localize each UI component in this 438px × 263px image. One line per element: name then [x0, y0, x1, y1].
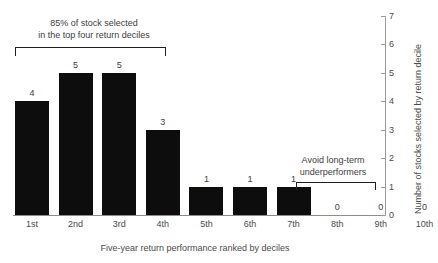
x-axis-tick-label: 3rd [102, 219, 136, 230]
bar [233, 187, 267, 215]
y-axis-tick-label: 7 [389, 12, 394, 21]
y-axis-tick-label: 6 [389, 40, 394, 49]
x-axis-tick-label: 5th [189, 219, 223, 230]
bar-value-label: 3 [146, 117, 180, 127]
x-axis-tick-label: 1st [15, 219, 49, 230]
y-axis-tick-label: 2 [389, 154, 394, 163]
annotation-bottom-deciles-bracket [296, 182, 376, 190]
y-axis-tick [381, 16, 385, 17]
bar [15, 101, 49, 215]
bar [146, 130, 180, 215]
bar-value-label: 5 [59, 60, 93, 70]
x-axis-tick-label: 2nd [59, 219, 93, 230]
y-axis-title: Number of stocks selected by return deci… [414, 44, 423, 214]
bar-value-label: 1 [233, 174, 267, 184]
x-axis-tick-label: 9th [364, 219, 398, 230]
annotation-top-deciles-bracket [15, 47, 166, 56]
y-axis-tick [381, 130, 385, 131]
bar [189, 187, 223, 215]
x-axis-line [13, 215, 385, 216]
y-axis-tick [381, 187, 385, 188]
bar-value-label: 0 [320, 202, 354, 212]
bar-value-label: 4 [15, 88, 49, 98]
bar [102, 73, 136, 215]
x-axis-title: Five-year return performance ranked by d… [0, 243, 390, 253]
x-axis-tick-label: 8th [320, 219, 354, 230]
y-axis-tick-label: 3 [389, 126, 394, 135]
x-axis-tick-label: 6th [233, 219, 267, 230]
y-axis-tick [381, 73, 385, 74]
y-axis-tick-label: 5 [389, 69, 394, 78]
bar-value-label: 5 [102, 60, 136, 70]
bar [59, 73, 93, 215]
annotation-top-deciles-text: 85% of stock selected in the top four re… [14, 18, 174, 41]
x-axis-tick-label: 7th [277, 219, 311, 230]
y-axis-tick [381, 101, 385, 102]
bar-value-label: 1 [189, 174, 223, 184]
y-axis-tick-label: 0 [389, 211, 394, 220]
y-axis-tick-label: 4 [389, 97, 394, 106]
y-axis-line [385, 16, 386, 216]
y-axis-tick [381, 44, 385, 45]
y-axis-tick-label: 1 [389, 183, 394, 192]
bar [277, 187, 311, 215]
y-axis-tick [381, 215, 385, 216]
x-axis-tick-label: 4th [146, 219, 180, 230]
annotation-bottom-deciles-text: Avoid long-term underperformers [281, 155, 385, 178]
x-axis-tick-label: 10th [407, 219, 438, 230]
